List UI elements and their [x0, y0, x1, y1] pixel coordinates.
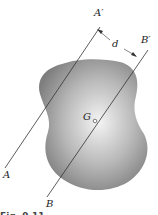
- label-b-prime: B′: [140, 34, 151, 45]
- label-b: B: [45, 198, 53, 209]
- label-g: G: [83, 111, 91, 122]
- label-a: A: [2, 169, 10, 180]
- figure-caption: Fig. 9.11: [0, 211, 44, 215]
- centroid-point: [93, 119, 97, 123]
- label-d: d: [112, 38, 118, 49]
- parallel-axis-diagram: A′ B′ d G A B Fig. 9.11: [0, 0, 158, 215]
- label-a-prime: A′: [93, 7, 104, 18]
- rigid-body-shape: [39, 59, 147, 190]
